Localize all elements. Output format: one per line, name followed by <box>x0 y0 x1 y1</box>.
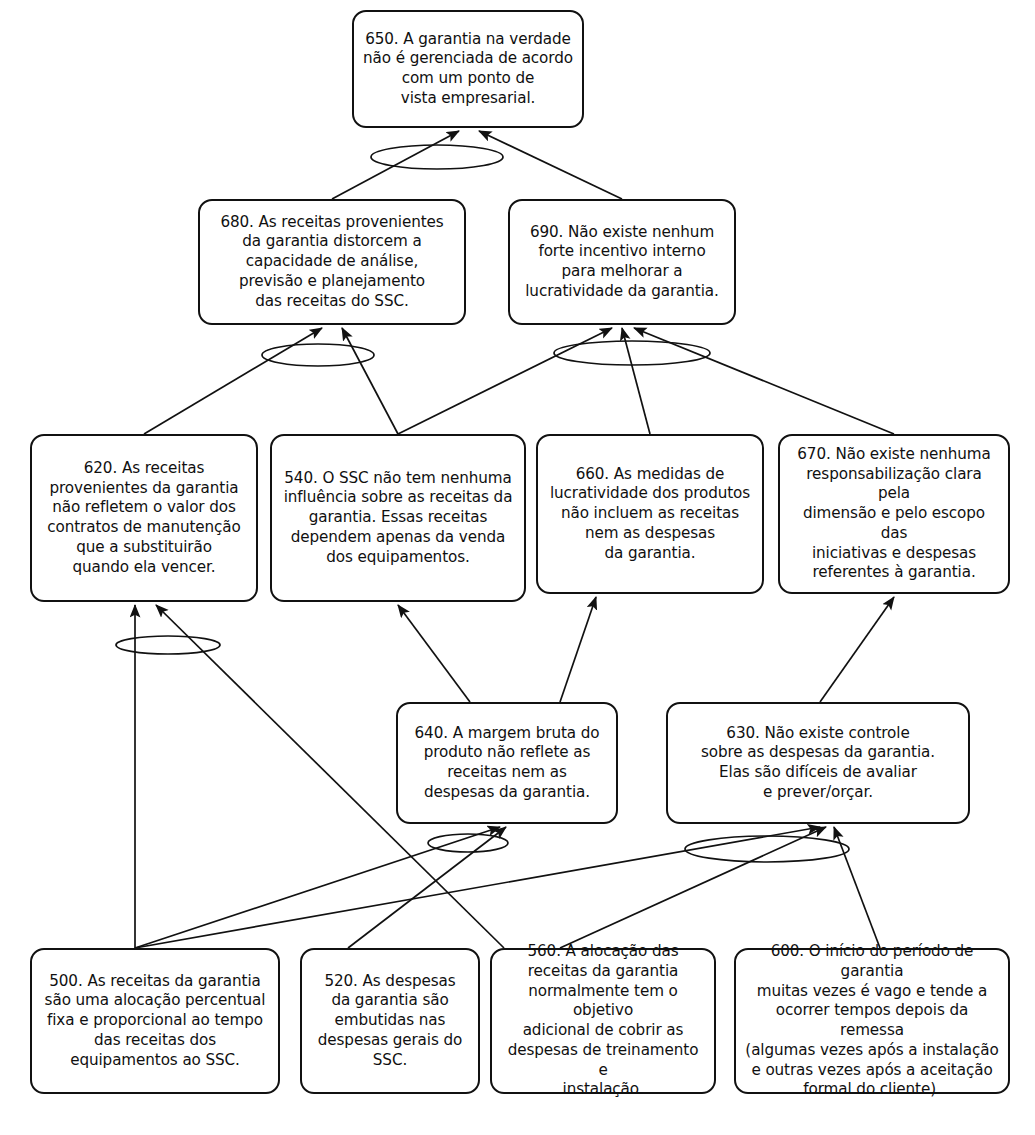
crt-node-600[interactable]: 600. O início do período de garantia mui… <box>734 948 1010 1094</box>
crt-node-label: 660. As medidas de lucratividade dos pro… <box>550 465 750 564</box>
crt-node-label: 670. Não existe nenhuma responsabilizaçã… <box>789 445 999 583</box>
crt-edge-670-to-690 <box>634 328 894 434</box>
and-connector-icon-640 <box>428 834 508 852</box>
crt-edge-560-to-630 <box>560 827 826 948</box>
crt-node-620[interactable]: 620. As receitas provenientes da garanti… <box>30 434 258 602</box>
crt-node-670[interactable]: 670. Não existe nenhuma responsabilizaçã… <box>778 434 1010 594</box>
crt-edge-520-to-640 <box>348 827 506 948</box>
crt-edge-500-to-630 <box>135 827 820 948</box>
crt-node-label: 620. As receitas provenientes da garanti… <box>47 459 241 578</box>
crt-edge-640-to-540 <box>398 605 470 702</box>
and-connector-icon-690 <box>554 341 710 365</box>
crt-node-630[interactable]: 630. Não existe controle sobre as despes… <box>666 702 970 824</box>
crt-edge-500-to-640 <box>135 827 500 948</box>
crt-node-label: 650. A garantia na verdade não é gerenci… <box>363 30 573 109</box>
crt-edge-540-to-690 <box>398 328 612 434</box>
crt-edge-540-to-680 <box>342 328 398 434</box>
crt-node-650[interactable]: 650. A garantia na verdade não é gerenci… <box>352 10 584 128</box>
and-connector-icon-630 <box>685 836 849 862</box>
crt-edge-690-to-650 <box>479 131 622 199</box>
crt-node-520[interactable]: 520. As despesas da garantia são embutid… <box>300 948 480 1094</box>
crt-node-540[interactable]: 540. O SSC não tem nenhuma influência so… <box>270 434 526 602</box>
crt-diagram-canvas: 650. A garantia na verdade não é gerenci… <box>0 0 1035 1135</box>
crt-node-label: 600. O início do período de garantia mui… <box>745 942 999 1100</box>
crt-node-label: 630. Não existe controle sobre as despes… <box>701 724 935 803</box>
crt-edge-600-to-630 <box>834 827 880 948</box>
crt-node-560[interactable]: 560. A alocação das receitas da garantia… <box>490 948 716 1094</box>
and-connector-icon-680 <box>262 344 374 366</box>
crt-edge-640-to-660 <box>560 597 596 702</box>
crt-edge-680-to-650 <box>332 131 459 199</box>
crt-node-690[interactable]: 690. Não existe nenhum forte incentivo i… <box>508 199 736 325</box>
crt-edge-630-to-670 <box>820 597 894 702</box>
crt-node-label: 680. As receitas provenientes da garanti… <box>220 213 443 312</box>
crt-edge-620-to-680 <box>144 328 322 434</box>
crt-node-label: 500. As receitas da garantia são uma alo… <box>45 972 266 1071</box>
crt-node-label: 690. Não existe nenhum forte incentivo i… <box>525 223 719 302</box>
crt-node-660[interactable]: 660. As medidas de lucratividade dos pro… <box>536 434 764 594</box>
crt-node-label: 520. As despesas da garantia são embutid… <box>318 972 462 1071</box>
and-connector-icon-620 <box>116 636 220 654</box>
crt-node-500[interactable]: 500. As receitas da garantia são uma alo… <box>30 948 280 1094</box>
crt-node-label: 640. A margem bruta do produto não refle… <box>415 724 600 803</box>
crt-node-680[interactable]: 680. As receitas provenientes da garanti… <box>198 199 466 325</box>
crt-node-label: 540. O SSC não tem nenhuma influência so… <box>284 469 513 568</box>
and-connector-icon-650 <box>371 145 503 169</box>
crt-edge-660-to-690 <box>622 328 650 434</box>
crt-node-label: 560. A alocação das receitas da garantia… <box>501 942 705 1100</box>
crt-node-640[interactable]: 640. A margem bruta do produto não refle… <box>396 702 618 824</box>
